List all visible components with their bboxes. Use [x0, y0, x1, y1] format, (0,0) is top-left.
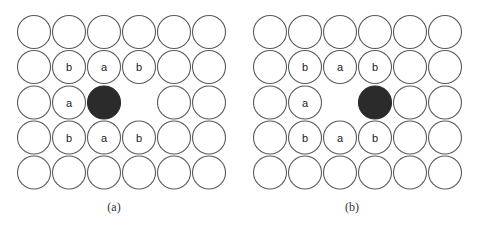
- atom-label-a: a: [101, 132, 108, 144]
- panel-a-lattice: bababab: [18, 16, 226, 190]
- lattice-atom: [18, 16, 51, 49]
- lattice-atom: [429, 86, 462, 119]
- lattice-atom: [429, 156, 462, 189]
- interstitial-dark-atom: [88, 86, 121, 119]
- lattice-atom: [18, 156, 51, 189]
- atom-label-b: b: [66, 132, 72, 144]
- atom-label-a: a: [337, 61, 344, 73]
- lattice-atom: [359, 156, 392, 189]
- atom-label-a: a: [101, 61, 108, 73]
- lattice-atom: [193, 51, 226, 84]
- lattice-atom: [193, 156, 226, 189]
- lattice-atom: [158, 156, 191, 189]
- atom-label-a: a: [337, 132, 344, 144]
- atom-label-b: b: [136, 132, 142, 144]
- lattice-atom: [394, 16, 427, 49]
- lattice-atom: [18, 51, 51, 84]
- lattice-atom: [123, 16, 156, 49]
- atom-label-a: a: [66, 97, 73, 109]
- lattice-atom: [254, 51, 287, 84]
- panel-b-lattice: bababab: [254, 16, 462, 190]
- lattice-atom: [254, 16, 287, 49]
- lattice-atom: [289, 16, 322, 49]
- atom-lattice-figure: bababab (a) bababab (b): [0, 0, 481, 225]
- lattice-atom: [88, 16, 121, 49]
- lattice-atom: [429, 16, 462, 49]
- lattice-atom: [254, 156, 287, 189]
- lattice-atom: [429, 121, 462, 154]
- atom-label-b: b: [302, 132, 308, 144]
- caption-panel-a: (a): [107, 200, 120, 214]
- caption-panel-b: (b): [345, 200, 359, 214]
- lattice-atom: [193, 121, 226, 154]
- lattice-atom: [158, 121, 191, 154]
- lattice-atom: [193, 86, 226, 119]
- atom-label-b: b: [372, 132, 378, 144]
- lattice-atom: [158, 86, 191, 119]
- lattice-atom: [18, 86, 51, 119]
- lattice-atom: [123, 156, 156, 189]
- lattice-atom: [193, 16, 226, 49]
- lattice-atom: [324, 16, 357, 49]
- atom-label-b: b: [302, 61, 308, 73]
- lattice-atom: [324, 156, 357, 189]
- lattice-atom: [394, 121, 427, 154]
- lattice-atom: [18, 121, 51, 154]
- lattice-atom: [158, 51, 191, 84]
- atom-label-a: a: [302, 97, 309, 109]
- atom-label-b: b: [372, 61, 378, 73]
- lattice-atom: [394, 51, 427, 84]
- lattice-atom: [158, 16, 191, 49]
- atom-label-b: b: [66, 61, 72, 73]
- lattice-atom: [429, 51, 462, 84]
- atom-label-b: b: [136, 61, 142, 73]
- interstitial-dark-atom: [359, 86, 392, 119]
- lattice-atom: [254, 86, 287, 119]
- lattice-atom: [254, 121, 287, 154]
- lattice-atom: [394, 86, 427, 119]
- lattice-atom: [359, 16, 392, 49]
- lattice-atom: [53, 16, 86, 49]
- lattice-atom: [289, 156, 322, 189]
- lattice-atom: [394, 156, 427, 189]
- lattice-atom: [88, 156, 121, 189]
- lattice-atom: [53, 156, 86, 189]
